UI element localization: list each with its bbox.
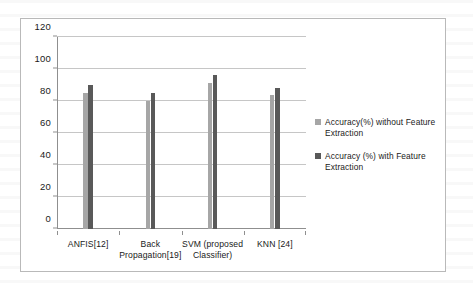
plot-area: 020406080100120 [57,37,306,229]
bar [151,93,155,229]
bar [213,75,217,229]
y-axis-tick-label: 40 [40,149,51,160]
y-axis-tick-label: 120 [35,21,51,32]
y-axis-tick-label: 20 [40,181,51,192]
bars-layer [57,37,306,229]
bar [208,83,212,229]
legend-swatch-icon [315,153,321,159]
x-axis-category-label: SVM (proposedClassifier) [182,239,244,261]
x-axis-label-line: ANFIS[12] [57,239,119,250]
legend-item[interactable]: Accuracy (%) with Feature Extraction [315,151,439,173]
x-axis-category-label: ANFIS[12] [57,239,119,250]
x-axis-category-label: KNN [24] [244,239,306,250]
x-axis-category-label: BackPropagation[19] [119,239,181,261]
bar-group [244,37,306,229]
bar-group [119,37,181,229]
y-axis-tick-label: 80 [40,85,51,96]
x-axis-tick-mark [305,231,306,235]
chart-frame: 020406080100120 ANFIS[12]BackPropagation… [20,18,446,272]
x-axis-tick-mark [119,231,120,235]
legend-item[interactable]: Accuracy(%) without Feature Extraction [315,117,439,139]
bar [83,93,87,229]
legend-label: Accuracy (%) with Feature Extraction [325,151,439,173]
y-axis-tick-label: 0 [46,213,51,224]
x-axis-label-line: Back [119,239,181,250]
x-axis-tick-mark [57,231,58,235]
bar [88,85,92,229]
x-axis-label-line: Propagation[19] [119,250,181,261]
x-axis-label-line: Classifier) [182,250,244,261]
legend-swatch-icon [315,119,321,125]
y-axis-tick-label: 100 [35,53,51,64]
x-axis-tick-mark [182,231,183,235]
x-axis-category-labels: ANFIS[12]BackPropagation[19]SVM (propose… [57,231,306,271]
chart-legend: Accuracy(%) without Feature ExtractionAc… [315,117,439,185]
y-axis-tick-label: 60 [40,117,51,128]
bar [146,101,150,229]
x-axis-label-line: SVM (proposed [182,239,244,250]
bar-group [57,37,119,229]
legend-label: Accuracy(%) without Feature Extraction [325,117,439,139]
x-axis-label-line: KNN [24] [244,239,306,250]
bar-group [182,37,244,229]
x-axis-tick-mark [244,231,245,235]
bar [270,95,274,229]
bar [275,88,279,229]
chart-inner: 020406080100120 ANFIS[12]BackPropagation… [21,19,445,271]
